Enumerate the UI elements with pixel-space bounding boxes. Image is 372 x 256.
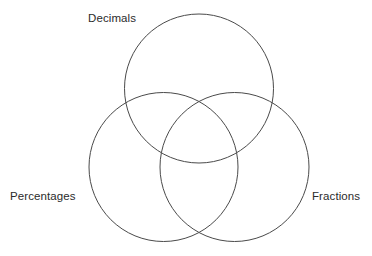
venn-circle-percentages [89, 93, 238, 242]
venn-diagram-canvas: Decimals Percentages Fractions [0, 0, 372, 256]
venn-diagram-graphic [0, 0, 372, 256]
venn-circle-decimals [125, 14, 274, 163]
venn-label-decimals: Decimals [88, 13, 136, 25]
venn-circle-fractions [160, 93, 309, 242]
venn-label-fractions: Fractions [312, 191, 360, 203]
venn-label-percentages: Percentages [10, 191, 76, 203]
